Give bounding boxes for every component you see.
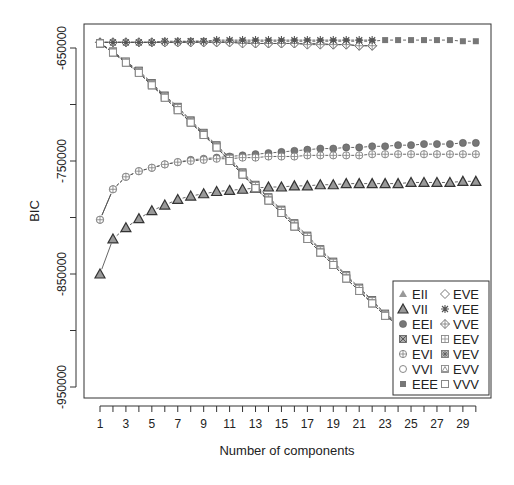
legend-label: EVE: [453, 287, 479, 302]
x-tick-label: 23: [378, 417, 392, 431]
x-axis: 1357911131517192123252729: [97, 406, 476, 431]
y-axis: -650000-750000-850000-950000: [55, 26, 76, 409]
legend-label: EVI: [412, 347, 433, 362]
legend-label: EII: [412, 287, 428, 302]
legend-label: EVV: [453, 362, 479, 377]
x-tick-label: 5: [148, 417, 155, 431]
x-axis-label: Number of components: [219, 443, 355, 458]
legend-label: EEI: [412, 317, 433, 332]
y-tick-label: -850000: [55, 252, 69, 296]
legend-label: VVE: [453, 317, 479, 332]
x-tick-label: 1: [97, 417, 104, 431]
x-tick-label: 11: [223, 417, 236, 431]
y-axis-label: BIC: [27, 200, 42, 222]
x-tick-label: 25: [404, 417, 418, 431]
x-tick-label: 17: [301, 417, 315, 431]
legend-label: EEE: [412, 377, 438, 392]
x-tick-label: 27: [430, 417, 444, 431]
legend-label: VEV: [453, 347, 479, 362]
legend-label: VEE: [453, 302, 479, 317]
legend-label: VII: [412, 302, 428, 317]
x-tick-label: 3: [123, 417, 130, 431]
x-tick-label: 13: [249, 417, 263, 431]
x-tick-label: 7: [174, 417, 181, 431]
legend: EIIVIIEEIVEIEVIVVIEEEEVEVEEVVEEEVVEVEVVV…: [393, 281, 489, 395]
x-tick-label: 29: [456, 417, 470, 431]
x-tick-label: 15: [275, 417, 289, 431]
legend-label: VVI: [412, 362, 433, 377]
y-tick-label: -750000: [55, 139, 69, 183]
x-tick-label: 19: [327, 417, 341, 431]
x-tick-label: 21: [353, 417, 367, 431]
bic-chart: -650000-750000-850000-950000 13579111315…: [0, 0, 514, 485]
legend-label: EEV: [453, 332, 479, 347]
legend-label: VVV: [453, 377, 479, 392]
y-tick-label: -950000: [55, 365, 69, 409]
legend-label: VEI: [412, 332, 433, 347]
x-tick-label: 9: [200, 417, 207, 431]
y-tick-label: -650000: [55, 26, 69, 70]
